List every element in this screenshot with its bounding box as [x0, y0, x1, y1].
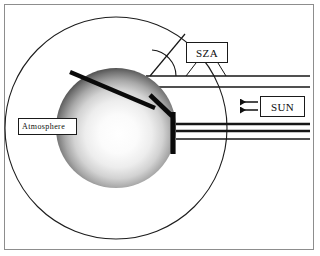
figure-root: SZA SUN Atmosphere [0, 0, 320, 256]
sza-leader-line [218, 63, 226, 76]
sun-label-box: SUN [260, 96, 305, 117]
atmosphere-label-text: Atmosphere [22, 122, 65, 131]
sza-angle-arc [152, 50, 176, 76]
sun-direction-arrows [240, 102, 258, 110]
atmosphere-label-box: Atmosphere [18, 118, 77, 135]
sza-leader-line [186, 63, 196, 76]
zenith-reference-line [150, 34, 185, 76]
sza-label-text: SZA [196, 47, 218, 59]
sun-label-text: SUN [271, 101, 294, 113]
sza-label-box: SZA [186, 42, 228, 63]
